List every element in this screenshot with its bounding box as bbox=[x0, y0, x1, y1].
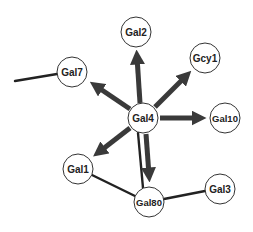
node-gal80: Gal80 bbox=[134, 187, 164, 217]
edge-gal80-gal3 bbox=[164, 191, 205, 199]
network-diagram: Gal4 Gal2 Gcy1 Gal7 Gal10 Gal1 Gal80 Gal… bbox=[0, 0, 253, 232]
node-label: Gal4 bbox=[132, 113, 154, 124]
node-gal10: Gal10 bbox=[210, 103, 240, 133]
node-label: Gal7 bbox=[61, 67, 83, 78]
node-label: Gal10 bbox=[212, 113, 238, 124]
node-label: Gal2 bbox=[125, 27, 147, 38]
edge-gal7-offscreen bbox=[15, 74, 57, 81]
arrow-gal4-gal80 bbox=[146, 134, 149, 175]
node-gcy1: Gcy1 bbox=[190, 43, 220, 73]
node-gal3: Gal3 bbox=[205, 174, 235, 204]
node-gal4: Gal4 bbox=[128, 103, 158, 133]
node-label: Gal80 bbox=[136, 197, 162, 208]
node-label: Gal3 bbox=[209, 184, 231, 195]
arrow-gal4-gal7 bbox=[96, 86, 130, 109]
arrow-gal4-gal1 bbox=[99, 128, 130, 152]
node-gal1: Gal1 bbox=[63, 154, 93, 184]
node-label: Gcy1 bbox=[193, 53, 218, 64]
node-label: Gal1 bbox=[67, 164, 89, 175]
node-gal2: Gal2 bbox=[121, 17, 151, 47]
edge-gal1-gal80 bbox=[92, 175, 135, 196]
edge-gal4-gal80-line bbox=[138, 133, 143, 188]
arrow-gal4-gcy1 bbox=[155, 76, 186, 107]
node-gal7: Gal7 bbox=[57, 57, 87, 87]
arrow-gal4-gal2 bbox=[137, 57, 140, 103]
